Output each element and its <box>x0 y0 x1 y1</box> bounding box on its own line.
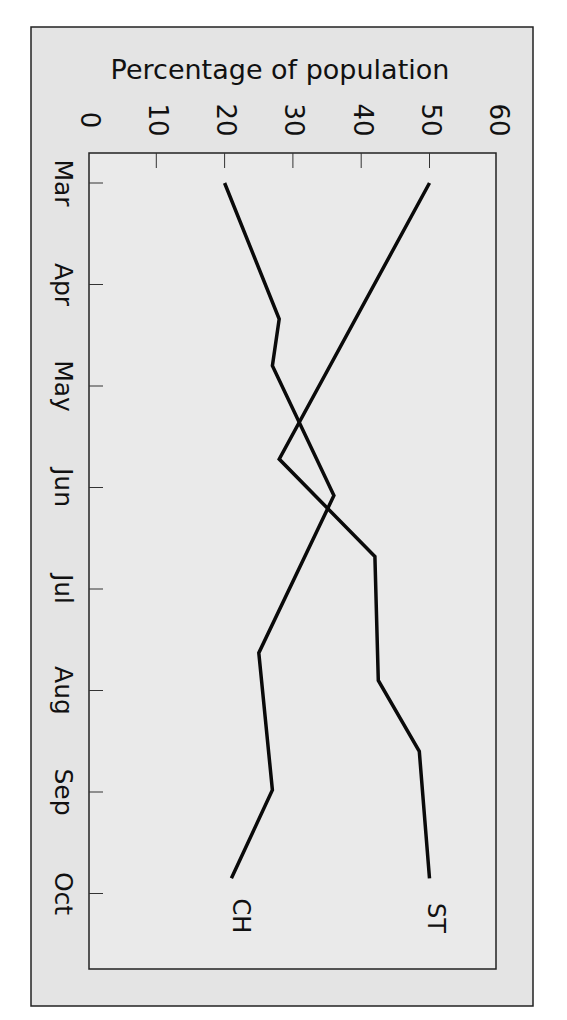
y-axis-label: Percentage of population <box>111 54 450 85</box>
series-label-ch: CH <box>227 899 255 934</box>
series-label-st: ST <box>422 903 450 933</box>
value-tick-label: 40 <box>348 103 378 136</box>
month-tick-label: Oct <box>49 872 78 915</box>
month-tick-label: May <box>49 360 78 412</box>
value-tick-label: 60 <box>484 103 514 136</box>
value-tick-label: 30 <box>279 103 309 136</box>
month-tick-label: Jul <box>49 572 78 604</box>
month-tick-label: Aug <box>49 666 78 715</box>
value-tick-label: 50 <box>416 103 446 136</box>
value-tick-label: 20 <box>211 103 241 136</box>
value-tick-label: 10 <box>143 103 173 136</box>
month-tick-label: Apr <box>49 263 78 307</box>
plot-area <box>89 153 496 969</box>
month-tick-label: Mar <box>49 159 78 207</box>
month-tick-label: Sep <box>49 768 78 815</box>
line-chart: Percentage of population 0102030405060 M… <box>0 0 567 1020</box>
month-tick-label: Jun <box>49 466 78 507</box>
value-tick-label: 0 <box>75 112 105 129</box>
